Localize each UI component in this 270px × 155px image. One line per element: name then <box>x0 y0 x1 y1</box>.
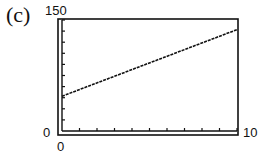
chart-plot-area <box>0 0 270 155</box>
axis-ticks <box>62 20 237 131</box>
chart-frame <box>58 19 238 135</box>
data-line <box>62 30 237 97</box>
